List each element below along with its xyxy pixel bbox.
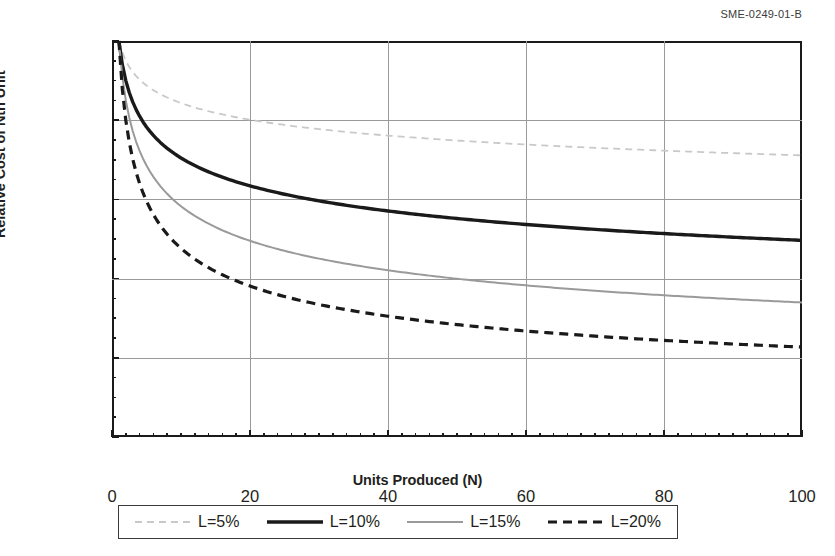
legend-label: L=15% [470,513,520,531]
legend-item[interactable]: L=5% [135,513,239,531]
y-axis-title: Relative Cost of Nth Unit [0,71,8,238]
legend-swatch-icon [407,517,463,527]
plot-area: 0.000.200.400.600.801.00020406080100 [112,41,802,437]
x-axis-tick-label: 100 [788,487,816,506]
legend-item[interactable]: L=15% [407,513,520,531]
x-axis-tick-label: 80 [655,487,673,506]
legend-item[interactable]: L=20% [548,513,661,531]
series-line-l-15 [119,41,802,302]
legend-item[interactable]: L=10% [267,513,380,531]
x-axis-tick-label: 0 [107,487,116,506]
legend-label: L=10% [330,513,380,531]
figure-reference-code: SME-0249-01-B [721,8,802,20]
legend: L=5%L=10%L=15%L=20% [118,505,678,539]
x-axis-tick-label: 40 [379,487,397,506]
x-axis-tick-label: 60 [517,487,535,506]
x-axis-tick-label: 20 [241,487,259,506]
series-curves [112,41,802,437]
series-line-l-5 [119,41,802,155]
x-axis-title: Units Produced (N) [0,472,835,488]
legend-swatch-icon [548,517,604,527]
legend-label: L=20% [611,513,661,531]
series-line-l-20 [119,41,802,347]
learning-curve-figure: SME-0249-01-B Relative Cost of Nth Unit … [0,0,835,556]
legend-swatch-icon [267,517,323,527]
legend-label: L=5% [198,513,239,531]
legend-swatch-icon [135,517,191,527]
